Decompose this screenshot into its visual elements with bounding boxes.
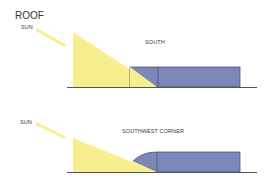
southwest-label: SOUTHWEST CORNER <box>122 129 184 135</box>
sun-ray <box>37 30 64 45</box>
sun-label-southwest: SUN <box>20 120 32 126</box>
south-label: SOUTH <box>145 40 165 46</box>
sun-ray <box>37 124 64 137</box>
diagram-title: ROOF <box>15 11 44 21</box>
sun-label-south: SUN <box>21 25 33 31</box>
roof-sun-diagram <box>0 0 270 182</box>
